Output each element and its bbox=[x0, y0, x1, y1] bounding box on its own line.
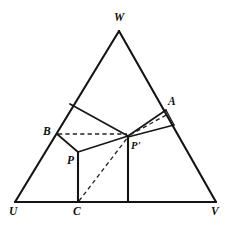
vertex-label-v: V bbox=[211, 206, 219, 218]
triangle-edge-WV bbox=[119, 31, 216, 202]
vertex-label-a: A bbox=[168, 96, 176, 108]
triangle-edge-UW bbox=[15, 31, 119, 202]
vertex-label-p-prime: P' bbox=[131, 141, 140, 152]
segment-B-to-P bbox=[57, 134, 78, 152]
figure-canvas bbox=[0, 0, 232, 225]
vertex-label-c: C bbox=[73, 206, 81, 218]
segment-P-to-Pprime bbox=[78, 136, 128, 152]
vertex-label-u: U bbox=[9, 206, 17, 218]
vertex-label-w: W bbox=[114, 12, 124, 24]
vertex-label-b: B bbox=[43, 126, 51, 138]
dashed-C-to-Pprime bbox=[79, 137, 128, 201]
geometry-figure: W A B P P' U C V bbox=[0, 0, 232, 225]
vertex-label-p: P bbox=[67, 155, 74, 167]
segment-E-to-Pprime bbox=[70, 104, 128, 136]
